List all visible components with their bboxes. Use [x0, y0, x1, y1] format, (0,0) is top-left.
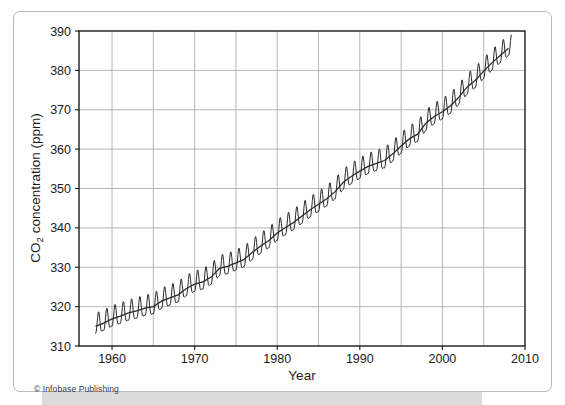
y-tick-label: 340	[50, 221, 71, 235]
y-tick-label: 370	[50, 103, 71, 117]
x-axis-title: Year	[288, 368, 316, 383]
x-tick-label: 1970	[181, 352, 209, 366]
x-axis-ticks: 196019701980199020002010	[98, 346, 539, 366]
y-tick-label: 330	[50, 261, 71, 275]
co2-concentration-line-chart: 196019701980199020002010 310320330340350…	[14, 12, 551, 391]
x-tick-label: 1990	[346, 352, 374, 366]
y-tick-label: 320	[50, 300, 71, 314]
y-tick-label: 390	[50, 25, 71, 39]
x-tick-label: 2010	[511, 352, 539, 366]
y-axis-title: CO2 concentration (ppm)	[28, 113, 45, 262]
y-tick-label: 350	[50, 182, 71, 196]
y-tick-label: 380	[50, 64, 71, 78]
x-tick-label: 1960	[98, 352, 126, 366]
figure-card: 196019701980199020002010 310320330340350…	[13, 11, 552, 392]
publisher-credit: © Infobase Publishing	[34, 384, 119, 394]
x-tick-label: 2000	[429, 352, 457, 366]
y-tick-label: 310	[50, 340, 71, 354]
y-axis-ticks: 310320330340350360370380390	[50, 25, 79, 354]
figure-root: 196019701980199020002010 310320330340350…	[0, 0, 565, 405]
y-tick-label: 360	[50, 143, 71, 157]
x-tick-label: 1980	[263, 352, 291, 366]
